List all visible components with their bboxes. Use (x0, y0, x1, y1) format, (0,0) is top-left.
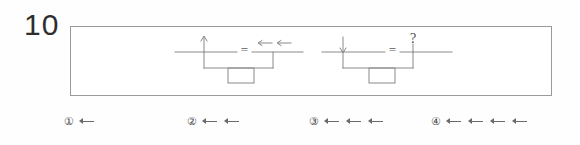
answer-option-3[interactable]: ③ (307, 110, 383, 132)
eq2-question-mark: ? (406, 31, 420, 47)
left-arrow-icon (79, 117, 94, 126)
left-arrow-icon (202, 117, 217, 126)
left-arrow-icon (490, 117, 505, 126)
left-arrow-icon (368, 117, 383, 126)
option-3-number: ③ (307, 116, 321, 127)
option-2-number: ② (185, 116, 199, 127)
option-1-arrows (79, 117, 94, 126)
eq1-equals-sign: = (237, 42, 252, 58)
eq2-equals-sign: = (385, 42, 400, 58)
left-arrow-icon (446, 117, 461, 126)
balance-diagram-panel (70, 26, 552, 96)
left-arrow-icon (512, 117, 527, 126)
option-4-arrows (446, 117, 527, 126)
option-1-number: ① (62, 116, 76, 127)
answer-option-1[interactable]: ① (62, 110, 94, 132)
option-3-arrows (324, 117, 383, 126)
left-arrow-icon (468, 117, 483, 126)
left-arrow-icon (224, 117, 239, 126)
answer-option-2[interactable]: ② (185, 110, 239, 132)
left-arrow-icon (346, 117, 361, 126)
answer-option-4[interactable]: ④ (429, 110, 527, 132)
answer-options-row: ① ② ③ ④ (0, 110, 580, 134)
option-4-number: ④ (429, 116, 443, 127)
left-arrow-icon (324, 117, 339, 126)
question-number: 10 (24, 10, 59, 40)
option-2-arrows (202, 117, 239, 126)
worksheet-page: 10 (0, 0, 580, 145)
